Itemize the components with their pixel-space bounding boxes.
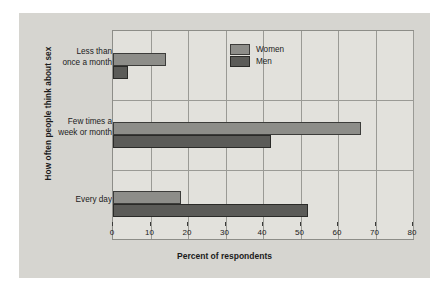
chart-figure: How often people think about sex Less th…: [19, 13, 430, 278]
x-axis-title: Percent of respondents: [19, 251, 430, 261]
legend-item-women: Women: [230, 44, 304, 56]
y-axis-tick-label-line: week or month: [0, 128, 112, 139]
legend-label-women: Women: [256, 45, 284, 54]
bar-women-2: [113, 191, 181, 204]
x-axis-tick-label: 50: [287, 228, 313, 237]
x-axis-tick-label: 60: [324, 228, 350, 237]
x-axis-tick: [112, 222, 113, 226]
legend-swatch-men-icon: [230, 56, 250, 67]
gridline-vertical: [413, 31, 414, 239]
x-axis-tick: [300, 222, 301, 226]
gridline-vertical: [376, 31, 377, 239]
bar-men-0: [113, 66, 128, 79]
bar-women-0: [113, 53, 166, 66]
y-axis-tick-label-line: Few times a: [0, 117, 112, 128]
gridline-horizontal: [113, 170, 413, 171]
y-axis-tick-label: Few times a week or month: [0, 117, 112, 138]
y-axis-tick-label: Every day: [0, 195, 112, 206]
y-axis-tick-label-line: Less than: [0, 47, 112, 58]
gridline-horizontal: [113, 100, 413, 101]
chart-legend: Women Men: [230, 44, 304, 68]
legend-label-men: Men: [256, 57, 272, 66]
x-axis-tick-label: 20: [174, 228, 200, 237]
bar-men-2: [113, 204, 308, 217]
x-axis-tick-label: 10: [137, 228, 163, 237]
y-axis-tick-label-line: Every day: [0, 195, 112, 206]
bar-men-1: [113, 135, 271, 148]
legend-swatch-women-icon: [230, 44, 250, 55]
x-axis-tick: [337, 222, 338, 226]
x-axis-tick: [412, 222, 413, 226]
legend-item-men: Men: [230, 56, 304, 68]
x-axis-tick-label: 0: [99, 228, 125, 237]
y-axis-tick-label-line: once a month: [0, 58, 112, 69]
x-axis-tick: [150, 222, 151, 226]
x-axis-tick-label: 70: [362, 228, 388, 237]
x-axis-tick: [187, 222, 188, 226]
x-axis-tick-label: 80: [399, 228, 425, 237]
x-axis-tick-label: 40: [249, 228, 275, 237]
x-axis-tick: [262, 222, 263, 226]
x-axis-tick-label: 30: [212, 228, 238, 237]
x-axis-tick: [375, 222, 376, 226]
x-axis-tick: [225, 222, 226, 226]
y-axis-tick-label: Less than once a month: [0, 47, 112, 68]
bar-women-1: [113, 122, 361, 135]
gridline-vertical: [338, 31, 339, 239]
